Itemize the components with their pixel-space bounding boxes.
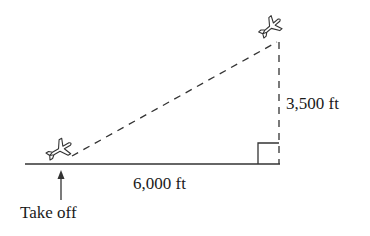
triangle-diagram: 3,500 ft 6,000 ft Take off: [0, 0, 370, 236]
right-angle-marker: [258, 143, 279, 164]
airplane-icon-altitude: [256, 13, 286, 42]
altitude-label: 3,500 ft: [286, 94, 339, 113]
takeoff-label: Take off: [20, 203, 77, 222]
flight-path-dashed: [72, 42, 277, 156]
takeoff-arrow-head: [58, 170, 65, 179]
airplane-icon-takeoff: [44, 135, 76, 164]
distance-label: 6,000 ft: [133, 174, 186, 193]
